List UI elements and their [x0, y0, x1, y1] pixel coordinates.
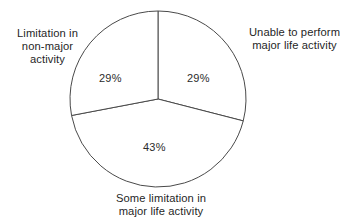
- label-left-line-2: non-major: [0, 40, 95, 53]
- label-bottom-line-1: Some limitation in: [96, 192, 226, 205]
- label-right-line-2: major life activity: [240, 39, 349, 52]
- pie-category-label-limitation-non-major: Limitation in non-major activity: [0, 27, 95, 67]
- label-right-line-1: Unable to perform: [240, 26, 349, 39]
- pie-value-label-unable-to-perform: 29%: [187, 73, 210, 84]
- pie-value-label-limitation-non-major: 29%: [99, 73, 122, 84]
- pie-value-label-some-limitation: 43%: [143, 142, 166, 153]
- label-left-line-3: activity: [0, 53, 95, 66]
- label-bottom-line-2: major life activity: [96, 205, 226, 218]
- pie-chart-figure: 29% 29% 43% Limitation in non-major acti…: [0, 0, 349, 221]
- label-left-line-1: Limitation in: [0, 27, 95, 40]
- pie-category-label-unable-to-perform: Unable to perform major life activity: [240, 26, 349, 52]
- pie-category-label-some-limitation: Some limitation in major life activity: [96, 192, 226, 218]
